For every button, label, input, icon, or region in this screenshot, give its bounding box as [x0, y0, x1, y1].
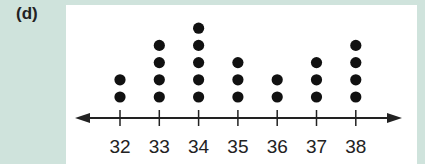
tick-label: 38 — [345, 136, 366, 157]
tick-label: 33 — [149, 136, 170, 157]
data-dot — [193, 23, 204, 34]
data-dot — [193, 91, 204, 102]
tick-label: 34 — [188, 136, 210, 157]
tick-label: 35 — [227, 136, 248, 157]
data-dot — [272, 74, 283, 85]
data-dot — [311, 74, 322, 85]
data-dot — [350, 57, 361, 68]
tick-label: 36 — [267, 136, 288, 157]
data-dot — [232, 91, 243, 102]
data-dot — [311, 57, 322, 68]
data-dot — [350, 91, 361, 102]
dot-plot: 32333435363738 — [0, 0, 425, 164]
data-dot — [193, 57, 204, 68]
data-dot — [232, 74, 243, 85]
data-dot — [232, 57, 243, 68]
tick-label: 32 — [109, 136, 130, 157]
data-dot — [193, 74, 204, 85]
data-dot — [272, 91, 283, 102]
data-dot — [154, 91, 165, 102]
data-dot — [154, 57, 165, 68]
data-dot — [350, 40, 361, 51]
data-dot — [154, 74, 165, 85]
right-arrow-icon — [387, 113, 402, 123]
data-dot — [114, 91, 125, 102]
data-dot — [154, 40, 165, 51]
data-dot — [114, 74, 125, 85]
tick-label: 37 — [306, 136, 327, 157]
data-dot — [350, 74, 361, 85]
left-arrow-icon — [75, 113, 90, 123]
data-dot — [193, 40, 204, 51]
data-dot — [311, 91, 322, 102]
